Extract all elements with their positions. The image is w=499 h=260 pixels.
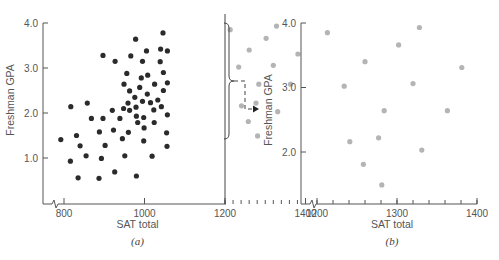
y-axis-title: Freshman GPA [262, 74, 274, 146]
data-point [342, 84, 347, 89]
data-point [142, 125, 147, 130]
data-point [58, 137, 63, 142]
data-point [100, 53, 105, 58]
data-point [459, 65, 464, 70]
data-point [160, 30, 165, 35]
series-above-1200 [325, 25, 465, 188]
x-tick-label: 1200 [306, 208, 329, 219]
data-point [103, 143, 108, 148]
series-below-1200 [58, 30, 170, 181]
data-point [274, 24, 279, 29]
data-point [112, 169, 117, 174]
data-point [141, 115, 146, 120]
data-point [85, 101, 90, 106]
data-point [247, 47, 252, 52]
data-point [148, 100, 153, 105]
data-point [134, 114, 139, 119]
data-point [84, 153, 89, 158]
x-axis-title: SAT total [116, 218, 158, 230]
arrow-head-icon [253, 106, 259, 113]
data-point [295, 51, 300, 56]
data-point [151, 107, 156, 112]
data-point [239, 103, 244, 108]
x-axis-title: SAT total [371, 218, 413, 230]
data-point [152, 120, 157, 125]
y-tick-label: 4.0 [282, 18, 296, 29]
data-point [165, 112, 170, 117]
data-point [165, 80, 170, 85]
data-point [121, 82, 126, 87]
panel-label: (a) [131, 235, 144, 248]
data-point [97, 129, 102, 134]
data-point [74, 133, 79, 138]
data-point [137, 85, 142, 90]
y-tick-label: 3.0 [282, 82, 296, 93]
data-point [140, 59, 145, 64]
data-point [145, 92, 150, 97]
data-point [419, 148, 424, 153]
data-point [133, 105, 138, 110]
y-tick-label: 1.0 [24, 153, 38, 164]
data-point [361, 162, 366, 167]
data-point [445, 108, 450, 113]
data-point [111, 128, 116, 133]
data-point [128, 53, 133, 58]
data-point [121, 106, 126, 111]
y-tick-label: 2.0 [282, 147, 296, 158]
data-point [120, 136, 125, 141]
y-tick-label: 3.0 [24, 63, 38, 74]
data-point [68, 159, 73, 164]
x-axis-line-with-break [301, 200, 477, 208]
data-point [165, 48, 170, 53]
data-point [376, 135, 381, 140]
x-tick-label: 1400 [466, 208, 489, 219]
data-point [236, 65, 241, 70]
data-point [164, 130, 169, 135]
data-point [362, 59, 367, 64]
data-point [382, 108, 387, 113]
y-tick-label: 4.0 [24, 18, 38, 29]
data-point [347, 139, 352, 144]
data-point [417, 25, 422, 30]
data-point [100, 116, 105, 121]
data-point [140, 99, 145, 104]
data-point [117, 116, 122, 121]
data-point [264, 36, 269, 41]
data-point [396, 42, 401, 47]
data-point [133, 37, 138, 42]
y-axis-title: Freshman GPA [4, 64, 16, 136]
data-point [134, 173, 139, 178]
data-point [139, 75, 144, 80]
data-point [110, 108, 115, 113]
data-point [96, 176, 101, 181]
data-point [161, 70, 166, 75]
data-point [325, 30, 330, 35]
x-axis-line-with-break [43, 200, 226, 208]
data-point [256, 82, 261, 87]
data-point [271, 63, 276, 68]
data-point [89, 116, 94, 121]
data-point [228, 27, 233, 32]
data-point [126, 130, 131, 135]
data-point [99, 156, 104, 161]
data-point [125, 101, 130, 106]
y-tick-label: 2.0 [24, 108, 38, 119]
data-point [127, 108, 132, 113]
data-point [76, 175, 81, 180]
data-point [141, 138, 146, 143]
data-point [124, 71, 129, 76]
data-point [255, 133, 260, 138]
data-point [78, 143, 83, 148]
data-point [158, 59, 163, 64]
x-tick-label: 800 [56, 208, 73, 219]
data-point [246, 119, 251, 124]
data-point [275, 109, 280, 114]
data-point [152, 82, 157, 87]
data-point [379, 182, 384, 187]
data-point [135, 120, 140, 125]
brace-arrow-connector [224, 23, 259, 139]
data-point [145, 73, 150, 78]
data-point [68, 104, 73, 109]
data-point [132, 95, 137, 100]
data-point [122, 153, 127, 158]
